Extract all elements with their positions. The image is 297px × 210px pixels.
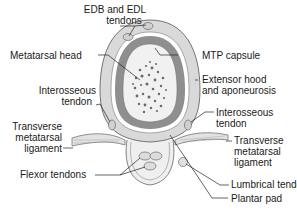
label-mtp-capsule: MTP capsule xyxy=(202,50,260,61)
label-interosseous-tendon-left: Interosseous tendon xyxy=(28,85,96,107)
mtp-joint-diagram: EDB and EDL tendons Metatarsal head MTP … xyxy=(0,0,297,210)
metatarsal-head xyxy=(123,44,177,122)
transverse-metatarsal-ligament-right xyxy=(175,133,228,145)
label-line: Transverse xyxy=(2,121,62,132)
label-line: tendon xyxy=(216,118,273,129)
label-line: ligament xyxy=(2,143,62,154)
label-transverse-metatarsal-ligament-left: Transverse metatarsal ligament xyxy=(2,121,62,154)
label-plantar-pad: Plantar pad xyxy=(231,193,282,204)
label-line: Transverse xyxy=(234,135,284,146)
label-interosseous-tendon-right: Interosseous tendon xyxy=(216,107,273,129)
label-edb-edl-tendons: EDB and EDL tendons xyxy=(70,4,160,26)
label-line: EDB and EDL xyxy=(70,4,160,15)
label-line: metatarsal xyxy=(2,132,62,143)
label-line: Interosseous xyxy=(28,85,96,96)
label-lumbrical-tendon: Lumbrical tendon xyxy=(231,179,297,190)
label-extensor-hood: Extensor hood and aponeurosis xyxy=(202,74,276,96)
transverse-metatarsal-ligament-left xyxy=(72,134,125,146)
label-line: ligament xyxy=(234,157,284,168)
label-line: tendons xyxy=(70,15,160,26)
label-line: metatarsal xyxy=(234,146,284,157)
label-line: Extensor hood xyxy=(202,74,276,85)
label-line: Interosseous xyxy=(216,107,273,118)
label-metatarsal-head: Metatarsal head xyxy=(10,50,82,61)
label-line: tendon xyxy=(28,96,96,107)
label-line: and aponeurosis xyxy=(202,85,276,96)
label-flexor-tendons: Flexor tendons xyxy=(20,169,86,180)
label-transverse-metatarsal-ligament-right: Transverse metatarsal ligament xyxy=(234,135,284,168)
